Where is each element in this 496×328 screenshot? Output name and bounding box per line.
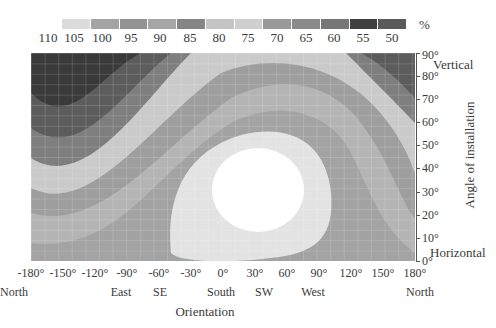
legend-label: 55 bbox=[357, 30, 370, 46]
x-direction-sw: SW bbox=[255, 285, 273, 300]
x-direction-north: North bbox=[0, 285, 28, 300]
y-tick bbox=[416, 168, 420, 169]
legend-swatch bbox=[91, 19, 120, 29]
legend-label: 80 bbox=[213, 30, 226, 46]
y-tick bbox=[416, 122, 420, 123]
x-tick-label: -60° bbox=[149, 266, 170, 281]
x-direction-north: North bbox=[406, 285, 434, 300]
y-tick bbox=[416, 261, 420, 262]
legend-label: 95 bbox=[125, 30, 138, 46]
x-tick-label: 30° bbox=[247, 266, 264, 281]
x-tick-label: 150° bbox=[372, 266, 395, 281]
legend-label: 75 bbox=[242, 30, 255, 46]
x-tick-label: 0° bbox=[218, 266, 229, 281]
x-tick-label: 120° bbox=[340, 266, 363, 281]
y-tick bbox=[416, 53, 420, 54]
legend-labels: 110 105 100 95 90 85 80 75 70 65 60 55 5… bbox=[20, 30, 440, 46]
x-tick-label: -120° bbox=[82, 266, 109, 281]
legend-label: 110 bbox=[38, 30, 57, 46]
legend-swatch bbox=[235, 19, 264, 29]
legend-swatch bbox=[263, 19, 292, 29]
legend-swatch bbox=[292, 19, 321, 29]
legend-swatch bbox=[62, 19, 91, 29]
legend-swatch bbox=[321, 19, 350, 29]
legend-label: 100 bbox=[92, 30, 112, 46]
legend-swatch bbox=[350, 19, 379, 29]
x-direction-south: South bbox=[207, 285, 235, 300]
y-tick bbox=[416, 76, 420, 77]
x-tick-label: 90° bbox=[311, 266, 328, 281]
x-direction-east: East bbox=[111, 285, 132, 300]
x-tick-label: -30° bbox=[181, 266, 202, 281]
y-tick bbox=[416, 238, 420, 239]
y-tick bbox=[416, 192, 420, 193]
legend-swatch bbox=[378, 19, 407, 29]
x-axis-title: Orientation bbox=[175, 304, 234, 320]
y-tick bbox=[416, 145, 420, 146]
x-direction-se: SE bbox=[153, 285, 167, 300]
legend-label: 50 bbox=[386, 30, 399, 46]
x-tick-label: 60° bbox=[279, 266, 296, 281]
y-tick bbox=[416, 99, 420, 100]
y-tick-label: 10° bbox=[422, 231, 439, 246]
y-tick bbox=[416, 215, 420, 216]
y-axis-title: Angle of installation bbox=[462, 102, 478, 209]
y-tick-label: 60° bbox=[422, 115, 439, 130]
y-tick-label: 40° bbox=[422, 161, 439, 176]
legend-swatch bbox=[206, 19, 235, 29]
x-tick-label: 180° bbox=[404, 266, 427, 281]
legend-swatch bbox=[120, 19, 149, 29]
x-direction-west: West bbox=[301, 285, 325, 300]
legend-label: 70 bbox=[271, 30, 284, 46]
x-tick-label: -180° bbox=[18, 266, 45, 281]
legend-label: 60 bbox=[328, 30, 341, 46]
legend-label: 90 bbox=[154, 30, 167, 46]
y-tick-label: 20° bbox=[422, 208, 439, 223]
y-tick-label: 30° bbox=[422, 185, 439, 200]
legend-label: 105 bbox=[64, 30, 84, 46]
y-label-vertical: Vertical bbox=[433, 57, 473, 73]
y-label-horizontal: Horizontal bbox=[430, 245, 486, 261]
y-tick-label: 50° bbox=[422, 138, 439, 153]
x-tick-label: -90° bbox=[117, 266, 138, 281]
legend-color-bar bbox=[62, 19, 407, 29]
legend-label: 85 bbox=[184, 30, 197, 46]
heatmap-plot-area bbox=[31, 53, 415, 261]
y-tick-label: 70° bbox=[422, 92, 439, 107]
x-tick-label: -150° bbox=[50, 266, 77, 281]
legend-swatch bbox=[148, 19, 177, 29]
legend-swatch bbox=[177, 19, 206, 29]
y-axis-line bbox=[416, 53, 417, 261]
legend-label: 65 bbox=[300, 30, 313, 46]
